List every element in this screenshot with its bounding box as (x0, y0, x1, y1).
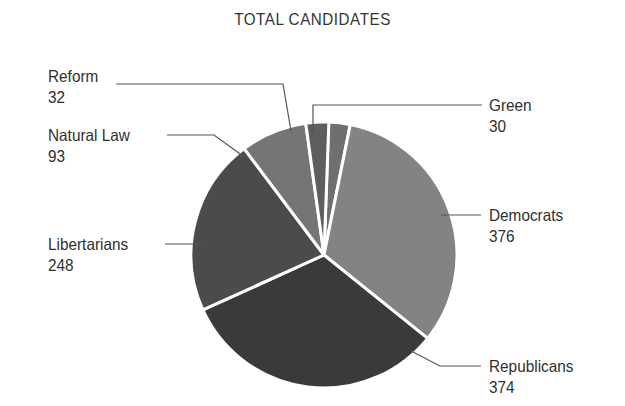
slice-label-green: Green 30 (489, 95, 532, 137)
pie-chart-graphic (0, 0, 625, 406)
leader-line-republicans (411, 351, 481, 366)
slice-label-democrats: Democrats 376 (489, 205, 563, 247)
slice-label-republicans: Republicans 374 (489, 356, 573, 398)
slice-label-reform-name: Reform (48, 66, 98, 87)
slice-label-natural-law-name: Natural Law (48, 125, 130, 146)
slice-label-green-name: Green (489, 95, 532, 116)
leader-line-reform (116, 84, 291, 131)
slice-label-reform: Reform 32 (48, 66, 98, 108)
slice-label-green-value: 30 (489, 116, 532, 137)
leader-line-natural-law (167, 135, 243, 156)
slice-label-natural-law: Natural Law 93 (48, 125, 130, 167)
slice-label-libertarians: Libertarians 248 (48, 234, 128, 276)
slice-label-democrats-name: Democrats (489, 205, 563, 226)
slice-label-libertarians-name: Libertarians (48, 234, 128, 255)
slice-label-republicans-value: 374 (489, 377, 573, 398)
pie-slice-group (191, 122, 457, 388)
slice-label-natural-law-value: 93 (48, 146, 130, 167)
slice-label-republicans-name: Republicans (489, 356, 573, 377)
slice-label-libertarians-value: 248 (48, 255, 128, 276)
pie-chart-figure: TOTAL CANDIDATES Reform 32 Natural Law 9… (0, 0, 625, 406)
slice-label-reform-value: 32 (48, 87, 98, 108)
slice-label-democrats-value: 376 (489, 226, 563, 247)
